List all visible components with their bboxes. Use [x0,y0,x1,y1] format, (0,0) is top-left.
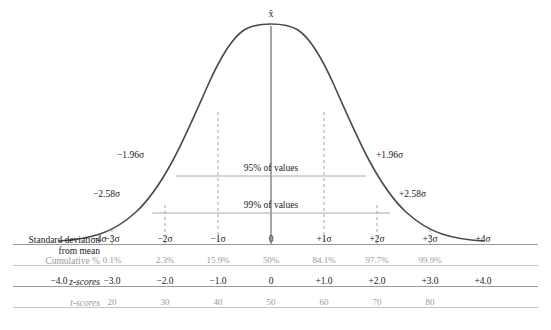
row-label-cumulative-percent: Cumulative % [0,256,100,266]
zscore-tick-0: −4.0 [39,276,79,286]
normal-distribution-figure: x̄ −1.96σ +1.96σ 95% of values −2.58σ +2… [0,0,551,330]
zscore-tick-3: −1.0 [198,276,238,286]
cumulative-tick-6: 99.9% [410,255,450,265]
band-95-label: 95% of values [221,163,321,173]
tscore-tick-6: 80 [410,297,450,307]
row-label-t-scores: t-scores [0,298,100,308]
sigma-tick-3: −1σ [198,234,238,244]
cumulative-tick-2: 15.9% [198,255,238,265]
band-99-left-label: −2.58σ [93,189,120,199]
sigma-tick-2: −2σ [145,234,185,244]
zscore-tick-1: −3.0 [92,276,132,286]
tscore-tick-3: 50 [251,297,291,307]
mean-marker-label: x̄ [261,8,281,19]
band-99-label: 99% of values [221,200,321,210]
cumulative-tick-0: 0.1% [92,255,132,265]
zscore-tick-4: 0 [251,276,291,286]
zscore-tick-2: −2.0 [145,276,185,286]
tscore-tick-0: 20 [92,297,132,307]
band-95-left-label: −1.96σ [117,150,144,160]
sigma-tick-8: +4σ [463,234,503,244]
cumulative-tick-5: 97.7% [357,255,397,265]
zscore-tick-5: +1.0 [304,276,344,286]
sigma-tick-6: +2σ [357,234,397,244]
zscore-tick-7: +3.0 [410,276,450,286]
cumulative-tick-4: 84.1% [304,255,344,265]
band-99-right-label: +2.58σ [399,189,426,199]
row-label-standard-deviation-line2: from mean [0,246,100,256]
tscore-tick-5: 70 [357,297,397,307]
zscore-tick-8: +4.0 [463,276,503,286]
sigma-tick-5: +1σ [304,234,344,244]
zscore-tick-6: +2.0 [357,276,397,286]
tscore-tick-4: 60 [304,297,344,307]
tscore-tick-2: 40 [198,297,238,307]
tscore-tick-1: 30 [145,297,185,307]
cumulative-tick-1: 2.3% [145,255,185,265]
sigma-tick-7: +3σ [410,234,450,244]
cumulative-tick-3: 50% [251,255,291,265]
band-95-right-label: +1.96σ [376,150,403,160]
sigma-tick-1: −3σ [92,234,132,244]
sigma-tick-4: 0 [251,234,291,244]
